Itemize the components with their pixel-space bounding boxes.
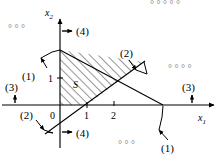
svg-text:° ° °: ° ° ° xyxy=(118,139,135,150)
figure-canvas: ° ° ° ° ° ° ° ° ° ° ° ° ° ° ° 0 1 2 1 x1… xyxy=(0,0,223,154)
leader-c1-right-tail xyxy=(159,106,163,130)
callout-label-c2-bottom: (2) xyxy=(20,109,33,122)
tick-label-x-2: 2 xyxy=(111,110,116,121)
axis-label-x2: x2 xyxy=(44,7,53,21)
leader-c1-right xyxy=(159,130,168,140)
leader-c2-bottom xyxy=(36,120,44,130)
tick-label-x-0: 0 xyxy=(50,110,55,121)
svg-text:° ° ° ° °: ° ° ° ° ° xyxy=(150,0,180,10)
callout-label-c3-right: (3) xyxy=(182,81,195,94)
leader-c1-top-tail xyxy=(41,50,60,58)
tick-label-x-1: 1 xyxy=(84,110,89,121)
region-label-S: S xyxy=(73,79,78,90)
leader-c1-top xyxy=(41,58,47,68)
callout-label-c2-top: (2) xyxy=(120,47,133,60)
callout-label-c1-top: (1) xyxy=(22,70,35,83)
constraint-region-plot: ° ° ° ° ° ° ° ° ° ° ° ° ° ° ° 0 1 2 1 x1… xyxy=(0,0,223,154)
callout-label-c1-right: (1) xyxy=(161,142,174,154)
svg-text:° ° °: ° ° ° xyxy=(8,23,25,34)
axis-label-x1: x1 xyxy=(197,112,206,126)
callout-label-c3-left: (3) xyxy=(5,81,18,94)
tick-label-y-1: 1 xyxy=(48,73,53,84)
callout-label-c4-top: (4) xyxy=(76,25,89,38)
callout-label-c4-bottom: (4) xyxy=(76,127,89,140)
leader-c2-bottom-tail xyxy=(44,130,53,133)
svg-text:° ° ° °: ° ° ° ° xyxy=(168,63,192,74)
